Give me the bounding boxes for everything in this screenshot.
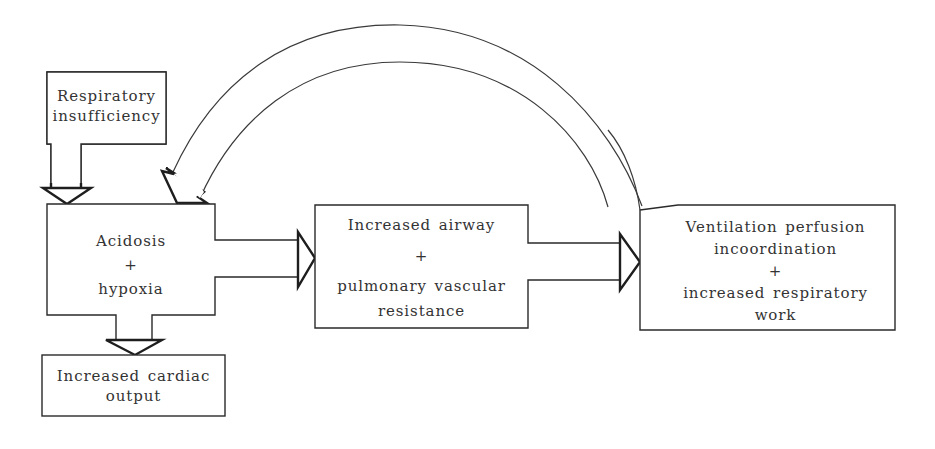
node-increased-cardiac-output: Increased cardiac output [42,366,225,406]
feedback-arrow-tail-join [608,130,640,210]
node-text-line: + [47,253,215,277]
arrow-right-to-airway [298,232,315,287]
node-text-line: + [315,238,528,274]
node-text-line: resistance [315,299,528,324]
node-text-line: output [42,386,225,406]
node-text-line: Ventilation perfusion [668,216,883,238]
node-text-line: Increased airway [315,213,528,238]
node-airway-resistance: Increased airway + pulmonary vascular re… [315,213,528,324]
node-text-line: incoordination [668,238,883,260]
node-text-line: insufficiency [47,106,166,126]
node-respiratory-insufficiency: Respiratory insufficiency [47,86,166,126]
arrow-right-to-ventilation [620,234,640,290]
feedback-arrow-inner-arc [200,62,608,207]
node-text-line: increased respiratory [668,282,883,304]
node-acidosis-hypoxia: Acidosis + hypoxia [47,229,215,301]
node-ventilation-perfusion: Ventilation perfusion incoordination + i… [668,216,883,326]
node-text-line: Respiratory [47,86,166,106]
node-text-line: Increased cardiac [42,366,225,386]
node-text-line: work [668,304,883,326]
node-text-line: Acidosis [47,229,215,253]
arrow-down-to-cardiac [106,340,162,355]
node-text-line: pulmonary vascular [315,274,528,299]
feedback-curved-arrow [162,25,642,207]
node-text-line: hypoxia [47,277,215,301]
node-text-line: + [668,260,883,282]
feedback-arrow-outer-arc [173,25,642,206]
